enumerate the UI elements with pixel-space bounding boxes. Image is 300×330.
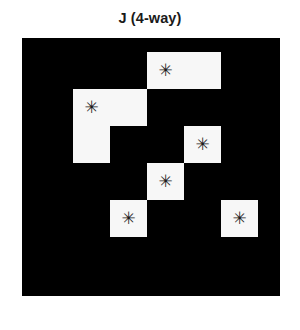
asterisk-marker-icon: ✳ xyxy=(184,126,221,163)
asterisk-marker-icon: ✳ xyxy=(147,163,184,200)
lattice-panel: ✳✳✳✳✳✳ xyxy=(22,38,280,296)
page-title: J (4-way) xyxy=(0,10,300,26)
cell-left-lower xyxy=(73,126,110,163)
cell-top-pair-right xyxy=(184,52,221,89)
asterisk-marker-icon: ✳ xyxy=(221,200,258,237)
grid-layer: ✳✳✳✳✳✳ xyxy=(22,38,280,296)
figure-container: J (4-way) ✳✳✳✳✳✳ xyxy=(0,0,300,330)
asterisk-marker-icon: ✳ xyxy=(110,200,147,237)
cell-left-upper-b xyxy=(110,89,147,126)
asterisk-marker-icon: ✳ xyxy=(147,52,184,89)
asterisk-marker-icon: ✳ xyxy=(73,89,110,126)
